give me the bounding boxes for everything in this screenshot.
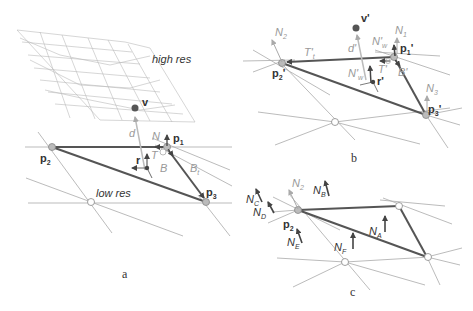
label-p3-prime: p3'	[428, 103, 442, 117]
label-T-prime: T'	[378, 63, 388, 75]
caption-b: b	[351, 151, 357, 165]
vertex-p1-c	[396, 203, 403, 210]
label-p2-prime: p2'	[272, 67, 286, 81]
edge-lines-b	[243, 50, 462, 148]
point-v-prime	[353, 25, 360, 32]
vertex-p3	[203, 199, 210, 206]
caption-a: a	[122, 267, 128, 281]
label-NC: NC	[246, 193, 260, 207]
label-d-prime: d'	[348, 42, 357, 54]
label-NB: NB	[313, 184, 326, 198]
caption-c: c	[350, 285, 355, 299]
figure-canvas: high res v d r	[0, 0, 473, 311]
label-r-prime: r'	[377, 75, 384, 87]
label-Bt: Bt	[190, 162, 200, 176]
label-p1: p1	[173, 132, 184, 146]
point-v	[132, 105, 139, 112]
label-Nw-top: N'w	[372, 35, 388, 49]
normal-NE-arrow	[297, 229, 302, 243]
label-B: B	[160, 162, 167, 174]
label-p2-c: p2	[283, 218, 294, 232]
vertex-p2	[49, 144, 56, 151]
label-N3: N3	[426, 82, 438, 96]
label-T: T	[151, 149, 159, 161]
normal-N2-c-arrow	[289, 190, 298, 209]
label-p2: p2	[40, 152, 51, 166]
vertex-p1-ghost	[160, 149, 166, 155]
frame-bitangent	[147, 168, 152, 178]
label-d: d	[129, 127, 136, 139]
label-B-prime: B'	[398, 66, 408, 78]
label-v-prime: v'	[361, 12, 370, 24]
low-res-label: low res	[96, 187, 131, 199]
panel-c: N2 NB NC ND NE NF NA p2 c	[246, 177, 462, 299]
triangle-edges-c	[298, 206, 427, 257]
label-N1: N1	[395, 24, 407, 38]
high-res-label: high res	[152, 53, 192, 65]
label-v: v	[142, 96, 149, 108]
label-Nw-r: N'w	[348, 67, 364, 81]
vertex-open-c	[342, 259, 349, 266]
high-res-mesh	[17, 30, 195, 122]
label-NA: NA	[369, 225, 382, 239]
label-N2-c: N2	[292, 177, 304, 191]
vertex-open-b	[332, 119, 339, 126]
label-NE: NE	[287, 236, 300, 250]
label-r: r	[136, 154, 141, 166]
label-p1-prime: p1'	[400, 42, 414, 56]
normal-warped-r	[370, 66, 371, 83]
vertex-p1-prime	[391, 54, 398, 61]
vertex-p2-prime	[279, 60, 286, 67]
normal-warped-p1	[394, 45, 395, 56]
panel-a: high res v d r	[17, 30, 232, 281]
label-N: N	[152, 130, 160, 142]
vertex-open	[88, 199, 95, 206]
label-p3: p3	[206, 186, 217, 200]
label-Tt-prime: T't	[304, 46, 316, 60]
label-N2: N2	[275, 26, 287, 40]
normal-N2-arrow	[272, 40, 282, 62]
normal-ND-arrow	[268, 202, 274, 213]
panel-b: v' d' r' N'w N1 N'w T' B' T't N2 N3 p1' …	[243, 12, 462, 165]
vertex-p2-c	[295, 207, 302, 214]
vertex-p3-c	[425, 254, 432, 261]
label-NF: NF	[334, 241, 347, 255]
frame-tangent-b	[360, 82, 373, 85]
label-ND: ND	[253, 206, 266, 220]
